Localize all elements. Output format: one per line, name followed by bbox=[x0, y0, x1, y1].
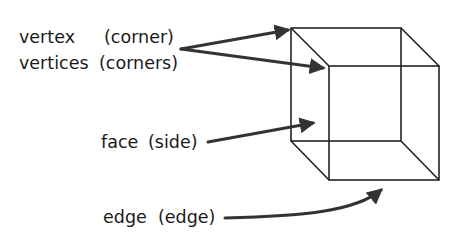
label-face-translation: (side) bbox=[148, 132, 198, 152]
arrow-vertices bbox=[181, 49, 323, 68]
arrows bbox=[181, 30, 381, 218]
label-vertex-translation: (corner) bbox=[104, 27, 174, 47]
labels: vertex (corner) vertices (corners) face … bbox=[19, 27, 215, 227]
arrow-edge bbox=[225, 190, 381, 218]
label-vertex-term: vertex bbox=[19, 27, 75, 47]
label-edge-term: edge bbox=[103, 207, 147, 227]
cube-edge-bottom-right bbox=[401, 141, 439, 180]
arrow-face bbox=[208, 123, 313, 142]
cube-edge-top-left bbox=[291, 28, 329, 66]
label-vertices-translation: (corners) bbox=[99, 53, 178, 73]
cube-edge-bottom-left bbox=[291, 141, 329, 180]
cube-edge-top-right bbox=[401, 28, 439, 66]
label-face-term: face bbox=[101, 132, 138, 152]
cube-wireframe bbox=[291, 28, 439, 180]
label-edge-translation: (edge) bbox=[158, 207, 215, 227]
label-vertices-term: vertices bbox=[19, 53, 89, 73]
cube-diagram: vertex (corner) vertices (corners) face … bbox=[0, 0, 464, 238]
arrow-vertex bbox=[181, 30, 288, 49]
